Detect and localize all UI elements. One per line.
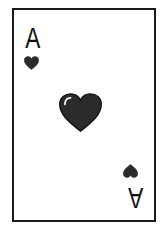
heart-icon: [58, 93, 103, 132]
heart-icon: [123, 164, 138, 178]
playing-card-ace-of-hearts[interactable]: A A: [12, 8, 156, 222]
rank-top-left: A: [25, 24, 40, 53]
heart-icon: [24, 56, 39, 70]
rank-bottom-right: A: [128, 183, 143, 212]
